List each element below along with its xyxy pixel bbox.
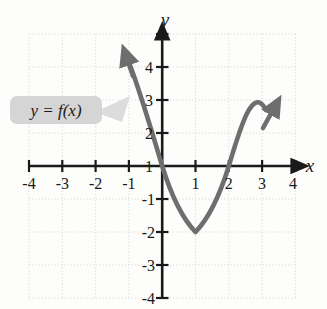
- x-tick-label: 3: [258, 175, 266, 192]
- callout-label: y = f(x): [28, 101, 81, 120]
- graph-svg: y = f(x) -4 -3 -2 -1 1 2 3 4 4 3 2 1 -1 …: [0, 0, 327, 309]
- x-tick-label: 2: [225, 175, 233, 192]
- y-tick-label: 3: [145, 92, 153, 109]
- x-tick-label: -1: [122, 175, 135, 192]
- y-tick-label: -4: [142, 290, 155, 307]
- figure-container: y = f(x) -4 -3 -2 -1 1 2 3 4 4 3 2 1 -1 …: [0, 0, 327, 309]
- x-tick-label: -2: [89, 175, 102, 192]
- y-axis-label: y: [159, 9, 170, 30]
- y-tick-label: 4: [145, 59, 153, 76]
- y-tick-label: -1: [142, 191, 155, 208]
- x-tick-label: 1: [192, 175, 200, 192]
- y-tick-label: 1: [145, 158, 153, 175]
- y-tick-label: -2: [142, 224, 155, 241]
- y-tick-label: 2: [145, 125, 153, 142]
- x-axis-label: x: [305, 155, 315, 176]
- curve-right-arrow: [263, 110, 273, 128]
- x-tick-label: -3: [56, 175, 69, 192]
- x-tick-label: 4: [289, 175, 297, 192]
- y-tick-label: -3: [142, 257, 155, 274]
- x-tick-label: -4: [22, 175, 35, 192]
- curve-left-arrow: [128, 60, 134, 76]
